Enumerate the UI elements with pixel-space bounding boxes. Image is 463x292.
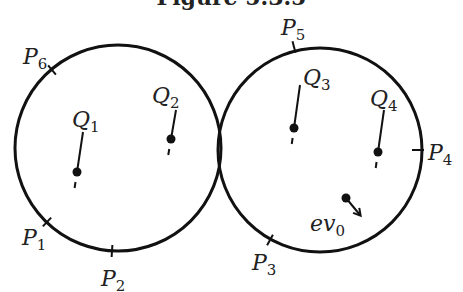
ray-q4 — [378, 110, 384, 152]
label-q4: Q4 — [370, 86, 398, 115]
dot-ev0 — [342, 194, 351, 203]
dot-q2 — [167, 135, 176, 144]
circles-group — [15, 45, 422, 252]
dash-q4 — [376, 162, 377, 168]
diagram-canvas: P1P2P3P4P5P6Q1Q2Q3Q4ev0 — [0, 0, 463, 292]
vector-group — [342, 194, 361, 216]
label-p6: P6 — [22, 44, 47, 73]
label-p4: P4 — [427, 140, 452, 169]
label-ev0: ev0 — [310, 211, 345, 240]
dash-q2 — [168, 149, 169, 155]
tick-p2 — [112, 245, 113, 257]
circle-left — [15, 45, 221, 251]
label-q2: Q2 — [152, 83, 180, 112]
label-p2: P2 — [100, 266, 125, 292]
boundary-ticks-group — [43, 41, 424, 257]
label-p3: P3 — [251, 250, 276, 279]
dot-q1 — [73, 168, 82, 177]
dot-q4 — [374, 148, 383, 157]
dash-q3 — [292, 138, 293, 144]
dot-q3 — [290, 124, 299, 133]
labels-group: P1P2P3P4P5P6Q1Q2Q3Q4ev0 — [21, 15, 452, 292]
dash-q1 — [75, 182, 76, 188]
ray-q3 — [294, 85, 300, 128]
label-q1: Q1 — [72, 107, 100, 136]
label-q3: Q3 — [303, 65, 331, 94]
interior-points-group — [73, 85, 385, 188]
ray-q1 — [77, 132, 83, 172]
label-p1: P1 — [21, 225, 46, 254]
label-p5: P5 — [280, 15, 305, 44]
